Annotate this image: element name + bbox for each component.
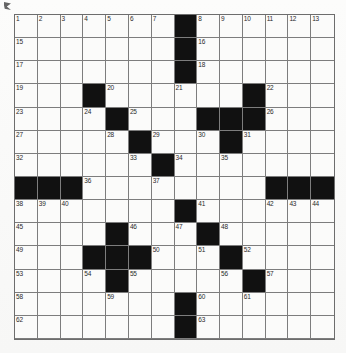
- grid-cell[interactable]: [288, 154, 311, 177]
- grid-cell[interactable]: 1: [15, 15, 38, 38]
- grid-cell[interactable]: [243, 154, 266, 177]
- grid-cell[interactable]: 18: [197, 61, 220, 84]
- grid-cell[interactable]: 55: [129, 270, 152, 293]
- grid-cell[interactable]: [220, 316, 243, 339]
- grid-cell[interactable]: [38, 246, 61, 269]
- grid-cell[interactable]: 36: [83, 177, 106, 200]
- grid-cell[interactable]: [266, 61, 289, 84]
- grid-cell[interactable]: [288, 84, 311, 107]
- grid-cell[interactable]: [220, 84, 243, 107]
- grid-cell[interactable]: 52: [243, 246, 266, 269]
- grid-cell[interactable]: 59: [106, 293, 129, 316]
- grid-cell[interactable]: [243, 61, 266, 84]
- grid-cell[interactable]: [175, 177, 198, 200]
- grid-cell[interactable]: [175, 131, 198, 154]
- grid-cell[interactable]: [288, 246, 311, 269]
- grid-cell[interactable]: [311, 108, 334, 131]
- grid-cell[interactable]: [152, 38, 175, 61]
- grid-cell[interactable]: 46: [129, 223, 152, 246]
- grid-cell[interactable]: [220, 38, 243, 61]
- grid-cell[interactable]: [38, 316, 61, 339]
- grid-cell[interactable]: [38, 108, 61, 131]
- grid-cell[interactable]: 57: [266, 270, 289, 293]
- grid-cell[interactable]: 35: [220, 154, 243, 177]
- grid-cell[interactable]: [38, 131, 61, 154]
- grid-cell[interactable]: 44: [311, 200, 334, 223]
- grid-cell[interactable]: 58: [15, 293, 38, 316]
- grid-cell[interactable]: [129, 84, 152, 107]
- grid-cell[interactable]: [83, 154, 106, 177]
- grid-cell[interactable]: 6: [129, 15, 152, 38]
- grid-cell[interactable]: [288, 270, 311, 293]
- grid-cell[interactable]: [152, 61, 175, 84]
- grid-cell[interactable]: 10: [243, 15, 266, 38]
- grid-cell[interactable]: [152, 270, 175, 293]
- grid-cell[interactable]: [61, 38, 84, 61]
- grid-cell[interactable]: [38, 270, 61, 293]
- grid-cell[interactable]: 53: [15, 270, 38, 293]
- grid-cell[interactable]: 20: [106, 84, 129, 107]
- grid-cell[interactable]: 2: [38, 15, 61, 38]
- grid-cell[interactable]: [106, 154, 129, 177]
- grid-cell[interactable]: 62: [15, 316, 38, 339]
- grid-cell[interactable]: 40: [61, 200, 84, 223]
- grid-cell[interactable]: [243, 177, 266, 200]
- grid-cell[interactable]: [38, 61, 61, 84]
- grid-cell[interactable]: 47: [175, 223, 198, 246]
- grid-cell[interactable]: [288, 61, 311, 84]
- grid-cell[interactable]: [266, 131, 289, 154]
- grid-cell[interactable]: 22: [266, 84, 289, 107]
- grid-cell[interactable]: 45: [15, 223, 38, 246]
- grid-cell[interactable]: [83, 200, 106, 223]
- grid-cell[interactable]: 24: [83, 108, 106, 131]
- grid-cell[interactable]: 42: [266, 200, 289, 223]
- grid-cell[interactable]: [83, 131, 106, 154]
- grid-cell[interactable]: [83, 316, 106, 339]
- grid-cell[interactable]: [152, 108, 175, 131]
- grid-cell[interactable]: [288, 38, 311, 61]
- grid-cell[interactable]: [243, 316, 266, 339]
- grid-cell[interactable]: [152, 84, 175, 107]
- grid-cell[interactable]: [152, 316, 175, 339]
- grid-cell[interactable]: 49: [15, 246, 38, 269]
- grid-cell[interactable]: 15: [15, 38, 38, 61]
- grid-cell[interactable]: [61, 61, 84, 84]
- grid-cell[interactable]: [83, 293, 106, 316]
- grid-cell[interactable]: [61, 316, 84, 339]
- grid-cell[interactable]: 8: [197, 15, 220, 38]
- grid-cell[interactable]: [266, 246, 289, 269]
- grid-cell[interactable]: 37: [152, 177, 175, 200]
- grid-cell[interactable]: [311, 293, 334, 316]
- grid-cell[interactable]: [61, 246, 84, 269]
- grid-cell[interactable]: [129, 61, 152, 84]
- grid-cell[interactable]: 7: [152, 15, 175, 38]
- grid-cell[interactable]: [197, 84, 220, 107]
- grid-cell[interactable]: [243, 38, 266, 61]
- grid-cell[interactable]: [266, 154, 289, 177]
- grid-cell[interactable]: [243, 200, 266, 223]
- grid-cell[interactable]: [175, 246, 198, 269]
- grid-cell[interactable]: 16: [197, 38, 220, 61]
- grid-cell[interactable]: [197, 154, 220, 177]
- grid-cell[interactable]: [61, 131, 84, 154]
- grid-cell[interactable]: [220, 177, 243, 200]
- grid-cell[interactable]: [311, 246, 334, 269]
- grid-cell[interactable]: [288, 108, 311, 131]
- grid-cell[interactable]: 38: [15, 200, 38, 223]
- grid-cell[interactable]: [152, 293, 175, 316]
- grid-cell[interactable]: 28: [106, 131, 129, 154]
- grid-cell[interactable]: [106, 177, 129, 200]
- grid-cell[interactable]: 50: [152, 246, 175, 269]
- grid-cell[interactable]: [266, 316, 289, 339]
- grid-cell[interactable]: [311, 154, 334, 177]
- grid-cell[interactable]: [83, 61, 106, 84]
- grid-cell[interactable]: [197, 270, 220, 293]
- grid-cell[interactable]: 39: [38, 200, 61, 223]
- grid-cell[interactable]: [61, 223, 84, 246]
- grid-cell[interactable]: [61, 108, 84, 131]
- grid-cell[interactable]: 12: [288, 15, 311, 38]
- grid-cell[interactable]: 60: [197, 293, 220, 316]
- grid-cell[interactable]: 43: [288, 200, 311, 223]
- grid-cell[interactable]: 61: [243, 293, 266, 316]
- grid-cell[interactable]: 5: [106, 15, 129, 38]
